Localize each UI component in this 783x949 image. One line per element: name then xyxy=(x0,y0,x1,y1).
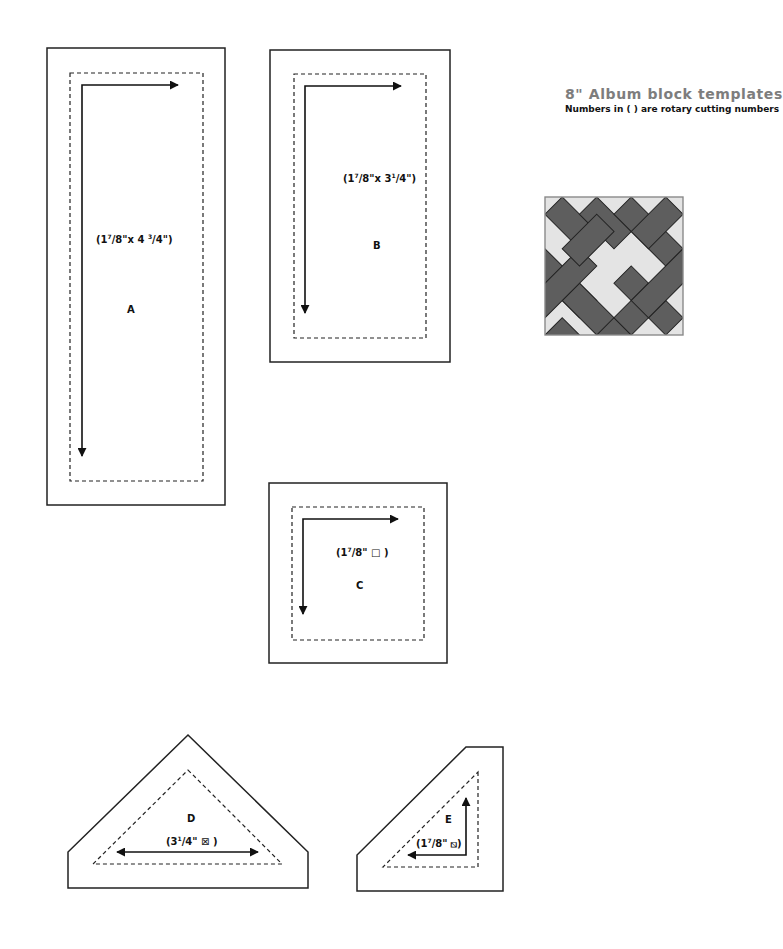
template-c-seam-line xyxy=(292,507,424,640)
template-a-letter: A xyxy=(127,304,135,315)
album-block-preview xyxy=(528,197,701,370)
template-d-cut-line xyxy=(68,735,308,888)
template-c-cut-line xyxy=(269,483,447,663)
template-b-grain-arrow xyxy=(305,86,401,313)
template-d xyxy=(68,735,308,888)
template-b xyxy=(270,50,450,362)
template-e xyxy=(357,747,503,891)
template-a-cut-size: (17/8"x 4 3/4") xyxy=(96,233,173,245)
template-c xyxy=(269,483,447,663)
template-e-cut-size: (17/8" ⧅) xyxy=(416,837,462,850)
template-e-seam-line xyxy=(383,772,478,867)
template-b-cut-line xyxy=(270,50,450,362)
template-d-letter: D xyxy=(187,813,195,824)
template-a xyxy=(47,48,225,505)
template-e-letter: E xyxy=(445,814,452,825)
template-c-letter: C xyxy=(356,580,363,591)
template-d-cut-size: (31/4" ⊠ ) xyxy=(166,835,217,847)
template-c-grain-arrow xyxy=(303,519,398,614)
template-b-seam-line xyxy=(294,74,426,338)
template-a-grain-arrow xyxy=(82,85,178,456)
template-a-seam-line xyxy=(70,73,203,481)
template-b-letter: B xyxy=(373,240,381,251)
template-a-cut-line xyxy=(47,48,225,505)
page-title: 8" Album block templates xyxy=(565,86,783,102)
page-subtitle: Numbers in ( ) are rotary cutting number… xyxy=(565,104,779,114)
template-e-cut-line xyxy=(357,747,503,891)
template-c-cut-size: (17/8" □ ) xyxy=(336,546,389,558)
template-b-cut-size: (17/8"x 31/4") xyxy=(343,172,416,184)
